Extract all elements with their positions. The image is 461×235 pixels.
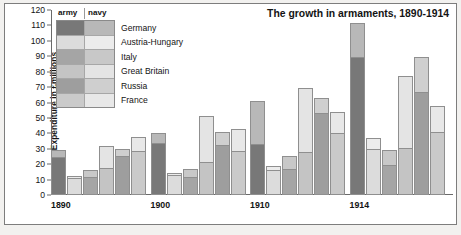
y-tick-40: 40 xyxy=(35,128,51,138)
y-tick-50: 50 xyxy=(35,113,51,123)
y-tick-10: 10 xyxy=(35,175,51,185)
segment-navy xyxy=(99,146,114,168)
bar-italy-1910[interactable] xyxy=(282,156,297,195)
legend-label: Great Britain xyxy=(121,66,169,76)
segment-navy xyxy=(151,133,166,143)
segment-army xyxy=(298,152,313,195)
segment-navy xyxy=(250,101,265,144)
segment-navy xyxy=(282,156,297,169)
segment-army xyxy=(314,113,329,195)
legend-label: France xyxy=(121,95,148,105)
bar-germany-1900[interactable] xyxy=(151,133,166,195)
legend-swatch-navy xyxy=(84,79,114,93)
bar-great-britain-1914[interactable] xyxy=(398,76,413,195)
legend-row-france[interactable]: France xyxy=(57,93,114,108)
bar-great-britain-1890[interactable] xyxy=(99,146,114,195)
legend-header-navy: navy xyxy=(88,8,106,17)
bar-austria-hungary-1914[interactable] xyxy=(366,138,381,195)
legend-label: Russia xyxy=(121,81,147,91)
bar-great-britain-1910[interactable] xyxy=(298,88,313,195)
legend-row-russia[interactable]: Russia xyxy=(57,78,114,93)
bar-france-1910[interactable] xyxy=(330,112,345,195)
segment-army xyxy=(231,151,246,195)
legend-swatch-army xyxy=(57,79,84,93)
legend-row-germany[interactable]: Germany xyxy=(57,21,114,35)
bar-italy-1900[interactable] xyxy=(183,169,198,195)
segment-navy xyxy=(183,169,198,177)
segment-navy xyxy=(199,116,214,161)
bars xyxy=(250,10,350,195)
bar-germany-1910[interactable] xyxy=(250,101,265,195)
segment-navy xyxy=(382,150,397,165)
legend-swatch-army xyxy=(57,36,84,50)
legend-row-great-britain[interactable]: Great Britain xyxy=(57,64,114,79)
segment-army xyxy=(115,156,130,195)
bar-france-1890[interactable] xyxy=(131,137,146,195)
legend-row-italy[interactable]: Italy xyxy=(57,49,114,64)
bar-italy-1890[interactable] xyxy=(83,170,98,195)
legend-header-army: army xyxy=(58,8,77,17)
legend-swatch-navy xyxy=(84,36,114,50)
bar-russia-1910[interactable] xyxy=(314,98,329,195)
y-tick-100: 100 xyxy=(31,36,51,46)
segment-army xyxy=(151,143,166,195)
legend-label: Austria-Hungary xyxy=(121,37,183,47)
bar-france-1900[interactable] xyxy=(231,129,246,195)
legend-swatch-army xyxy=(57,50,84,64)
y-tick-0: 0 xyxy=(40,190,51,200)
bar-france-1914[interactable] xyxy=(430,106,445,195)
y-tick-20: 20 xyxy=(35,159,51,169)
chart-title: The growth in armaments, 1890-1914 xyxy=(267,8,449,19)
segment-navy xyxy=(398,76,413,148)
bar-russia-1900[interactable] xyxy=(215,132,230,195)
legend-header: army navy xyxy=(56,8,115,19)
segment-army xyxy=(51,157,66,195)
bar-germany-1890[interactable] xyxy=(51,150,66,195)
legend: army navy GermanyAustria-HungaryItalyGre… xyxy=(56,8,115,108)
legend-row-austria-hungary[interactable]: Austria-Hungary xyxy=(57,35,114,50)
bar-group-1914: 1914 xyxy=(350,10,450,195)
bar-germany-1914[interactable] xyxy=(350,23,365,195)
segment-army xyxy=(199,162,214,195)
legend-rows: GermanyAustria-HungaryItalyGreat Britain… xyxy=(56,20,115,108)
bar-great-britain-1900[interactable] xyxy=(199,116,214,195)
segment-army xyxy=(131,151,146,195)
legend-swatch-army xyxy=(57,94,84,108)
y-tick-70: 70 xyxy=(35,82,51,92)
segment-army xyxy=(414,92,429,195)
x-tick-label-1910: 1910 xyxy=(250,200,270,210)
segment-army xyxy=(215,145,230,195)
segment-navy xyxy=(414,57,429,92)
segment-army xyxy=(67,178,82,195)
segment-navy xyxy=(430,106,445,132)
bar-austria-hungary-1890[interactable] xyxy=(67,176,82,195)
legend-label: Italy xyxy=(121,52,137,62)
legend-swatch-army xyxy=(57,21,84,35)
y-tick-120: 120 xyxy=(31,5,51,15)
legend-swatch-navy xyxy=(84,50,114,64)
y-tick-80: 80 xyxy=(35,67,51,77)
legend-swatch-army xyxy=(57,65,84,79)
segment-navy xyxy=(115,149,130,157)
legend-header-divider xyxy=(84,8,85,19)
segment-navy xyxy=(330,112,345,134)
segment-army xyxy=(99,168,114,195)
bar-austria-hungary-1900[interactable] xyxy=(167,173,182,195)
segment-army xyxy=(282,169,297,195)
segment-army xyxy=(382,165,397,195)
bar-russia-1914[interactable] xyxy=(414,57,429,195)
bars xyxy=(350,10,450,195)
segment-army xyxy=(430,132,445,195)
y-tick-60: 60 xyxy=(35,98,51,108)
segment-army xyxy=(350,57,365,195)
y-tick-30: 30 xyxy=(35,144,51,154)
segment-navy xyxy=(131,137,146,151)
segment-army xyxy=(330,133,345,195)
x-tick-label-1890: 1890 xyxy=(51,200,71,210)
segment-army xyxy=(167,175,182,195)
bar-austria-hungary-1910[interactable] xyxy=(266,166,281,195)
segment-army xyxy=(266,170,281,195)
bar-russia-1890[interactable] xyxy=(115,149,130,195)
bar-italy-1914[interactable] xyxy=(382,150,397,195)
segment-navy xyxy=(314,98,329,113)
